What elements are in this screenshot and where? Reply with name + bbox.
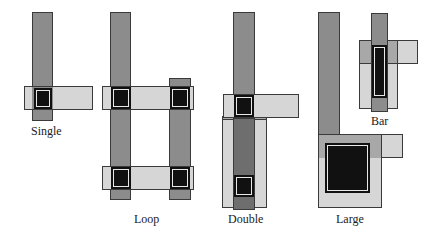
bar-label: Bar bbox=[371, 114, 388, 129]
loop-contact-top-right bbox=[170, 87, 190, 109]
loop-contact-bottom-left bbox=[111, 167, 131, 189]
large-metal-tab bbox=[380, 134, 403, 158]
large-poly-vertical bbox=[318, 12, 340, 136]
single-label: Single bbox=[31, 124, 62, 139]
large-label: Large bbox=[336, 212, 364, 227]
loop-contact-bottom-right bbox=[170, 167, 190, 189]
loop-label: Loop bbox=[134, 212, 159, 227]
double-contact-bottom bbox=[234, 175, 254, 197]
double-label: Double bbox=[228, 212, 263, 227]
single-contact bbox=[34, 88, 52, 109]
large-contact bbox=[325, 143, 370, 193]
bar-contact-bar bbox=[372, 45, 387, 98]
double-contact-top bbox=[234, 95, 254, 117]
loop-contact-top-left bbox=[111, 87, 131, 109]
